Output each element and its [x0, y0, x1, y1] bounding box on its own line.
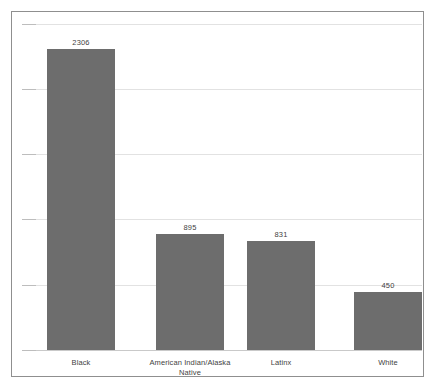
bar-value-latinx: 831	[275, 230, 288, 239]
x-axis-label-black: Black	[37, 358, 125, 368]
x-axis-label-white: White	[344, 358, 432, 368]
bar-chart-figure: 2306 895 831 450 Black	[0, 0, 436, 389]
bar-rect-american-indian-alaska-native[interactable]	[156, 234, 224, 350]
chart-frame-border: 2306 895 831 450 Black	[11, 11, 424, 377]
bar-value-american-indian-alaska-native: 895	[184, 223, 197, 232]
bar-value-black: 2306	[72, 38, 89, 47]
x-axis-label-black-line-1: Black	[37, 358, 125, 368]
bars-layer: 2306 895 831 450	[22, 13, 422, 351]
plot-area: 2306 895 831 450	[22, 13, 422, 351]
x-axis-label-american-indian-alaska-native-line-1: American Indian/Alaska	[135, 358, 245, 368]
bar-rect-black[interactable]	[47, 49, 115, 350]
bar-group-latinx: 831	[247, 241, 315, 350]
bar-group-white: 450	[354, 292, 422, 350]
bar-rect-latinx[interactable]	[247, 241, 315, 350]
bar-group-black: 2306	[47, 49, 115, 350]
x-axis-label-latinx-line-1: Latinx	[237, 358, 325, 368]
bar-value-white: 450	[382, 281, 395, 290]
x-axis-label-white-line-1: White	[344, 358, 432, 368]
x-axis-label-american-indian-alaska-native: American Indian/Alaska Native	[135, 358, 245, 378]
x-axis-label-latinx: Latinx	[237, 358, 325, 368]
bar-rect-white[interactable]	[354, 292, 422, 350]
bar-group-american-indian-alaska-native: 895	[156, 234, 224, 350]
x-axis-category-labels: Black American Indian/Alaska Native Lati…	[22, 352, 422, 386]
x-axis-label-american-indian-alaska-native-line-2: Native	[135, 368, 245, 378]
